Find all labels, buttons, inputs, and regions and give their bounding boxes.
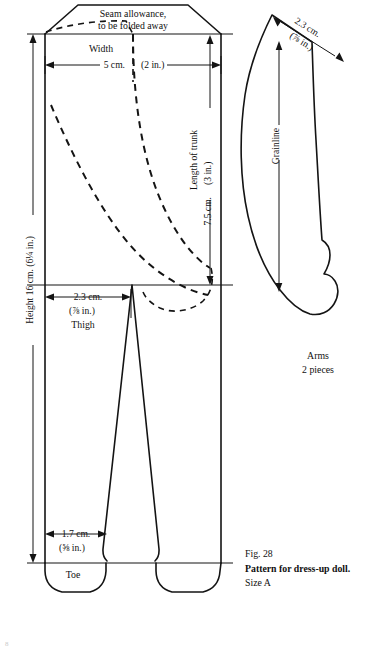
arm-hand-dashed-curve <box>143 268 212 311</box>
figure-caption: Pattern for dress-up doll. <box>245 563 351 574</box>
arm-outline <box>241 15 338 315</box>
seam-allowance-line1: Seam allowance, <box>100 8 166 19</box>
seam-allowance-caption-group: Seam allowance, to be folded away <box>98 8 168 31</box>
toe-cm-value: 1.7 cm. <box>62 528 91 539</box>
figure-caption-group: Fig. 28 Pattern for dress-up doll. Size … <box>245 548 351 588</box>
arm-placement-dashed-lower <box>51 105 208 295</box>
trunk-length-label: Length of trunk <box>188 130 199 190</box>
height-label: Height 16 cm. (6¼ in.) <box>24 236 36 324</box>
grainline-label: Grainline <box>270 128 281 164</box>
pattern-drawing-canvas: Width 5 cm. (2 in.) Seam allowance, to b… <box>0 0 390 650</box>
width-arrow-right <box>212 62 221 69</box>
body-piece-group <box>27 5 233 592</box>
thigh-dimension-group: 2.3 cm. (⅞ in.) Thigh <box>45 289 131 330</box>
trunk-cm-value: 7.5 cm. <box>202 197 213 226</box>
thigh-label: Thigh <box>71 319 95 330</box>
thigh-in-value: (⅞ in.) <box>69 305 95 317</box>
arm-piece-name: Arms <box>307 350 329 361</box>
figure-number: Fig. 28 <box>245 548 273 559</box>
toe-dimension-group: 1.7 cm. (⅝ in.) Toe <box>45 528 107 580</box>
right-toe-curve <box>156 563 221 592</box>
thigh-cm-value: 2.3 cm. <box>74 291 103 302</box>
arm-piece-group: Grainline 2.3 cm. (⅞ in.) Arms 2 pieces <box>241 15 344 375</box>
trunk-dimension-group: Length of trunk 7.5 cm. (3 in.) <box>188 35 214 285</box>
height-arrow-top <box>30 34 37 43</box>
width-cm-value: 5 cm. <box>104 59 125 70</box>
toe-in-value: (⅝ in.) <box>59 542 85 554</box>
height-dimension-group: Height 16 cm. (6¼ in.) <box>24 34 37 563</box>
thigh-arrow-left <box>45 294 54 301</box>
page-number: 8 <box>5 640 9 648</box>
seam-allowance-line2: to be folded away <box>98 20 168 31</box>
width-arrow-left <box>45 62 54 69</box>
figure-size: Size A <box>245 577 271 588</box>
height-arrow-bottom <box>30 554 37 563</box>
pattern-figure: Width 5 cm. (2 in.) Seam allowance, to b… <box>0 0 390 650</box>
toe-label: Toe <box>66 569 81 580</box>
grainline-arrow-top <box>276 41 283 50</box>
width-label: Width <box>89 43 113 54</box>
width-in-value: (2 in.) <box>141 59 164 71</box>
trunk-in-value: (3 in.) <box>202 162 214 185</box>
inner-leg-notch <box>103 285 159 561</box>
toe-arrow-left <box>45 531 54 538</box>
trunk-arrow-top <box>207 35 214 44</box>
arm-width-arrow-right <box>336 53 345 63</box>
arm-piece-count: 2 pieces <box>302 364 334 375</box>
